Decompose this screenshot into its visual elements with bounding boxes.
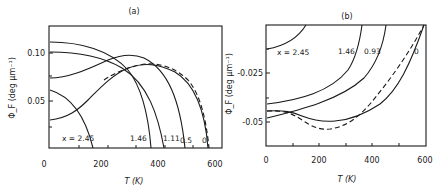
panel-a-xtick-label: 200 (93, 160, 108, 169)
panel-b-label-0.93: 0.93 (364, 47, 381, 56)
panel-a-xtick-label: 600 (207, 160, 222, 169)
figure: (a) 0.10 0.05 0 200 400 600 T (K) Φ_F (d… (0, 0, 446, 192)
panel-b-xtick-label: 0 (263, 156, 268, 165)
panel-a-label-0: 0 (202, 136, 207, 145)
panel-a: (a) 0.10 0.05 0 200 400 600 T (K) Φ_F (d… (8, 7, 223, 186)
panel-a-xtick-label: 0 (41, 160, 46, 169)
panel-b-plot-frame (266, 25, 426, 146)
panel-a-ytick-label: 0.10 (27, 49, 45, 58)
panel-a-title: (a) (128, 7, 139, 16)
panel-a-ytick-label: 0.05 (27, 97, 45, 106)
panel-b-label-0: 0 (414, 47, 419, 56)
panel-a-y-axis-label: Φ_F (deg µm⁻¹) (8, 57, 17, 119)
panel-b-xtick-label: 200 (311, 156, 326, 165)
panel-b-ytick-label: -0.025 (237, 69, 263, 78)
panel-b-title: (b) (341, 12, 352, 21)
panel-a-xtick-label: 400 (150, 160, 165, 169)
panel-b-curve-x2.45 (267, 25, 306, 49)
panel-b-label-x2.45: x = 2.45 (277, 48, 309, 57)
panel-b-xtick-label: 600 (417, 156, 432, 165)
panel-a-label-1.46: 1.46 (130, 134, 147, 143)
panel-b-xtick-label: 400 (364, 156, 379, 165)
panel-b-curve-x0.93 (267, 25, 386, 118)
panel-b-label-1.46: 1.46 (338, 47, 355, 56)
panel-a-label-1.11: 1.11 (163, 134, 180, 143)
panel-b: (b) -0.025 -0.05 0 200 400 600 T (K) Φ_F… (225, 12, 433, 184)
panel-a-curve-x1.46 (50, 42, 151, 148)
panel-b-x-axis-label: T (K) (338, 175, 357, 184)
panel-a-curve-x0-dashed (104, 64, 209, 148)
panel-b-ytick-label: -0.05 (242, 118, 263, 127)
panel-b-curve-x1.46 (267, 25, 362, 104)
panel-a-x-axis-label: T (K) (125, 177, 144, 186)
panel-b-y-axis-label: Φ_F (deg µm⁻¹) (225, 53, 234, 115)
panel-a-label-x2.45: x = 2.45 (62, 134, 94, 143)
panel-a-label-0.5: 0.5 (180, 136, 192, 145)
